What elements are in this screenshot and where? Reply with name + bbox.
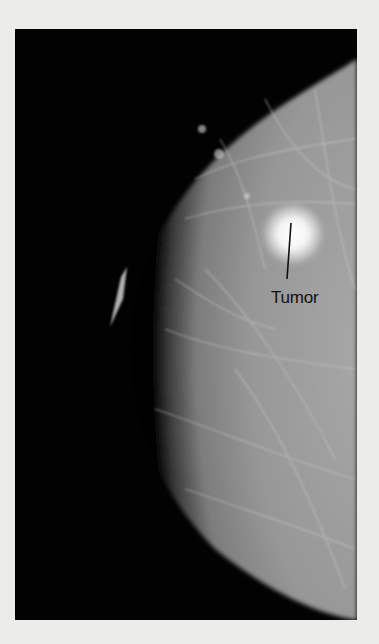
mammogram-image (15, 29, 357, 620)
tumor-label: Tumor (271, 288, 319, 308)
breast-tissue-graphic (15, 29, 357, 620)
